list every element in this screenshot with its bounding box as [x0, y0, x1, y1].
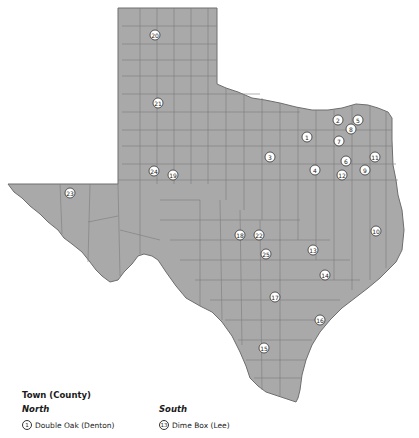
- town-marker-12: 12: [337, 170, 347, 180]
- town-marker-4: 4: [310, 165, 320, 175]
- legend-south-column: South 13 Dime Box (Lee): [159, 404, 230, 430]
- svg-text:18: 18: [236, 232, 244, 239]
- svg-text:8: 8: [349, 126, 353, 133]
- town-marker-7: 7: [334, 136, 344, 146]
- town-marker-17: 17: [270, 292, 280, 302]
- town-marker-13: 13: [308, 245, 318, 255]
- town-marker-8: 8: [346, 124, 356, 134]
- svg-text:16: 16: [316, 317, 324, 324]
- town-marker-5: 5: [353, 115, 363, 125]
- svg-text:5: 5: [356, 117, 360, 124]
- town-marker-20: 20: [150, 30, 160, 40]
- town-marker-25: 25: [261, 249, 271, 259]
- svg-text:3: 3: [268, 154, 272, 161]
- svg-text:19: 19: [169, 172, 177, 179]
- svg-text:17: 17: [271, 294, 279, 301]
- town-marker-21: 21: [153, 98, 163, 108]
- marker-number-badge: 1: [22, 420, 32, 430]
- town-marker-15: 15: [259, 343, 269, 353]
- texas-state-outline: [8, 8, 404, 402]
- legend-item-label: Double Oak (Denton): [35, 421, 114, 430]
- town-marker-9: 9: [360, 165, 370, 175]
- legend-item: 1 Double Oak (Denton): [22, 420, 114, 430]
- legend-south-heading: South: [159, 404, 230, 414]
- svg-text:4: 4: [313, 167, 317, 174]
- svg-text:25: 25: [262, 251, 270, 258]
- svg-text:20: 20: [151, 32, 159, 39]
- town-marker-24: 24: [149, 166, 159, 176]
- svg-text:24: 24: [150, 168, 158, 175]
- svg-text:1: 1: [305, 134, 309, 141]
- town-marker-10: 10: [371, 226, 381, 236]
- town-marker-11: 11: [370, 152, 380, 162]
- legend-item-label: Dime Box (Lee): [172, 421, 230, 430]
- town-marker-19: 19: [168, 170, 178, 180]
- svg-text:14: 14: [321, 272, 329, 279]
- svg-text:9: 9: [363, 167, 367, 174]
- svg-text:13: 13: [309, 247, 317, 254]
- town-marker-3: 3: [265, 152, 275, 162]
- svg-text:6: 6: [344, 158, 348, 165]
- town-marker-1: 1: [302, 132, 312, 142]
- town-marker-23: 23: [65, 188, 75, 198]
- town-marker-14: 14: [320, 270, 330, 280]
- town-marker-18: 18: [235, 230, 245, 240]
- town-marker-6: 6: [341, 156, 351, 166]
- legend-north-heading: North: [22, 404, 114, 414]
- legend-north-column: North 1 Double Oak (Denton): [22, 404, 114, 430]
- town-marker-16: 16: [315, 315, 325, 325]
- svg-text:7: 7: [337, 138, 341, 145]
- texas-map: 1234567891011121314151617181920212223242…: [0, 0, 419, 438]
- svg-text:10: 10: [372, 228, 380, 235]
- svg-text:23: 23: [66, 190, 74, 197]
- svg-text:15: 15: [260, 345, 268, 352]
- town-marker-22: 22: [254, 230, 264, 240]
- svg-text:22: 22: [255, 232, 263, 239]
- legend-item: 13 Dime Box (Lee): [159, 420, 230, 430]
- svg-text:21: 21: [154, 100, 162, 107]
- legend-title: Town (County): [22, 390, 91, 400]
- svg-text:12: 12: [338, 172, 346, 179]
- town-marker-2: 2: [333, 115, 343, 125]
- marker-number-badge: 13: [159, 420, 169, 430]
- svg-text:2: 2: [336, 117, 340, 124]
- svg-text:11: 11: [371, 154, 379, 161]
